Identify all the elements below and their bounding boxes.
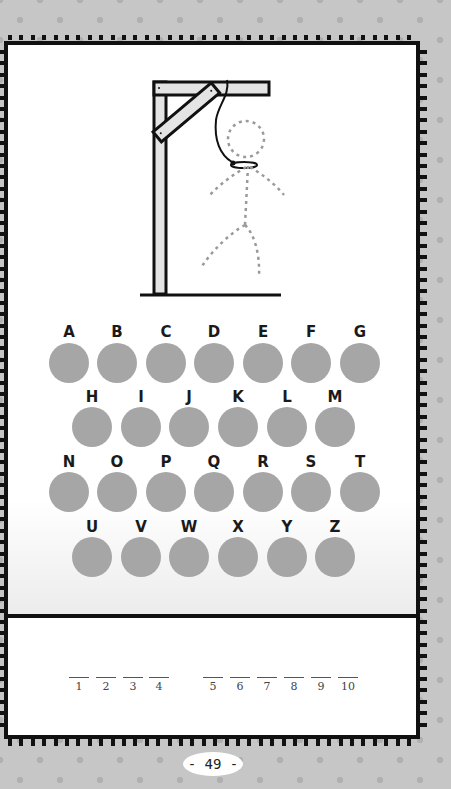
frame-ticks-top [8,35,414,40]
figure-left-arm [209,167,246,196]
letter-button-g[interactable] [340,343,380,383]
letter-button-k[interactable] [218,407,258,447]
answer-blank-7[interactable]: 7 [257,677,277,693]
letter-button-v[interactable] [121,537,161,577]
letter-button-x[interactable] [218,537,258,577]
gallows-post [154,82,166,294]
letter-label-m: M [315,389,355,405]
letter-label-w: W [169,519,209,535]
page-number-badge: - 49 - [183,752,243,776]
letter-button-q[interactable] [194,472,234,512]
letter-label-h: H [72,389,112,405]
letter-label-j: J [169,389,209,405]
letter-button-e[interactable] [243,343,283,383]
letter-button-u[interactable] [72,537,112,577]
letter-button-a[interactable] [49,343,89,383]
gallows-and-letters-panel: A B C D E F G H I J K L M [8,45,416,618]
answer-blank-5[interactable]: 5 [203,677,223,693]
letter-label-o: O [97,454,137,470]
letter-button-d[interactable] [194,343,234,383]
letter-label-r: R [243,454,283,470]
answer-blank-3[interactable]: 3 [123,677,143,693]
letter-button-t[interactable] [340,472,380,512]
letter-label-g: G [340,324,380,340]
letter-button-i[interactable] [121,407,161,447]
answer-blank-8[interactable]: 8 [284,677,304,693]
letter-button-w[interactable] [169,537,209,577]
answer-blank-9[interactable]: 9 [311,677,331,693]
figure-right-arm [250,167,284,195]
answer-blank-10[interactable]: 10 [338,677,358,693]
letter-button-o[interactable] [97,472,137,512]
letter-button-z[interactable] [315,537,355,577]
letter-button-f[interactable] [291,343,331,383]
letter-button-y[interactable] [267,537,307,577]
letter-button-c[interactable] [146,343,186,383]
letter-label-c: C [146,324,186,340]
letter-label-u: U [72,519,112,535]
stick-figure-outline [202,121,284,277]
letter-label-i: I [121,389,161,405]
letter-button-p[interactable] [146,472,186,512]
letter-label-p: P [146,454,186,470]
figure-head [228,121,264,157]
game-frame: A B C D E F G H I J K L M [4,41,420,739]
figure-left-leg [202,225,245,266]
letter-label-v: V [121,519,161,535]
letter-label-t: T [340,454,380,470]
letter-label-s: S [291,454,331,470]
letter-label-a: A [49,324,89,340]
letter-button-h[interactable] [72,407,112,447]
letter-button-j[interactable] [169,407,209,447]
letter-button-m[interactable] [315,407,355,447]
figure-right-leg [245,225,259,277]
letter-label-n: N [49,454,89,470]
answer-blank-1[interactable]: 1 [69,677,89,693]
letter-button-r[interactable] [243,472,283,512]
answer-blank-2[interactable]: 2 [96,677,116,693]
letter-button-n[interactable] [49,472,89,512]
letter-button-b[interactable] [97,343,137,383]
letter-label-f: F [291,324,331,340]
frame-ticks-right [420,50,427,730]
letter-label-d: D [194,324,234,340]
letter-label-x: X [218,519,258,535]
letter-label-k: K [218,389,258,405]
letter-button-l[interactable] [267,407,307,447]
answer-blank-6[interactable]: 6 [230,677,250,693]
figure-body [245,166,248,225]
frame-ticks-bottom [8,739,414,746]
letter-label-q: Q [194,454,234,470]
letter-label-l: L [267,389,307,405]
letter-label-y: Y [267,519,307,535]
letter-label-b: B [97,324,137,340]
letter-label-z: Z [315,519,355,535]
answer-blank-4[interactable]: 4 [149,677,169,693]
letter-button-s[interactable] [291,472,331,512]
letter-label-e: E [243,324,283,340]
